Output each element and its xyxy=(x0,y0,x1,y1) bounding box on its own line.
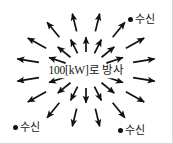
radiation-arrow xyxy=(133,59,155,63)
radiation-arrow xyxy=(126,38,144,48)
receiver-label: 수신 xyxy=(125,125,145,136)
radiation-arrow xyxy=(113,22,125,37)
receiver-bottom-left: 수신 xyxy=(12,122,41,133)
radiation-arrow xyxy=(95,14,99,32)
radiation-arrow xyxy=(126,92,144,102)
radiation-arrow xyxy=(58,83,71,93)
receiver-top-right: 수신 xyxy=(127,14,156,25)
radiation-arrow xyxy=(106,57,123,63)
radiation-arrow xyxy=(72,14,76,32)
receiver-dot-icon xyxy=(118,128,123,133)
radiation-arrow xyxy=(47,103,59,118)
radiation-arrow xyxy=(94,87,101,101)
radiation-arrow xyxy=(17,78,39,82)
radiation-arrow xyxy=(133,78,155,82)
radiation-arrow xyxy=(47,22,59,37)
radiation-arrow xyxy=(113,103,125,118)
receiver-dot-icon xyxy=(13,125,18,130)
radiation-figure: 100[kW]로 방사 수신 수신 수신 xyxy=(0,0,173,144)
receiver-label: 수신 xyxy=(20,122,40,133)
radiation-arrow xyxy=(49,57,66,63)
receiver-dot-icon xyxy=(128,17,133,22)
radiation-arrow xyxy=(72,109,76,127)
radiation-arrow xyxy=(17,59,39,63)
radiation-arrow xyxy=(102,83,115,93)
radiation-arrow xyxy=(95,109,99,127)
radiation-arrow xyxy=(28,38,46,48)
radiation-arrow xyxy=(94,40,101,54)
receiver-label: 수신 xyxy=(135,14,155,25)
center-power-label: 100[kW]로 방사 xyxy=(45,64,126,78)
radiation-arrow xyxy=(71,87,78,101)
radiation-arrow xyxy=(102,47,115,57)
receiver-bottom-right: 수신 xyxy=(117,125,146,136)
radiation-arrow xyxy=(71,40,78,54)
radiation-arrow xyxy=(28,92,46,102)
radiation-arrow xyxy=(58,47,71,57)
